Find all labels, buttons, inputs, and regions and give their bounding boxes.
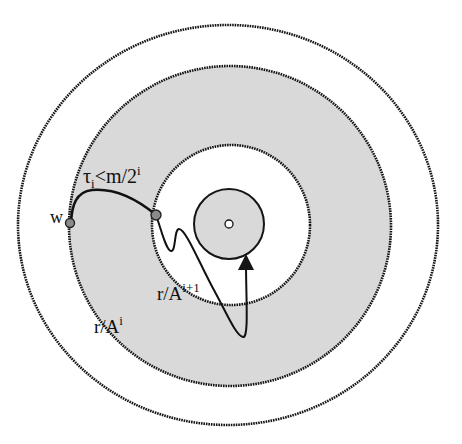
label-tau: τ: [83, 165, 91, 187]
label-r-outer-radius: r/Ai: [94, 313, 123, 337]
node-w: [66, 219, 75, 228]
label-tau-sup: i: [137, 163, 141, 178]
label-r-inner-base: r/A: [157, 283, 183, 304]
label-r-inner-sup: i+1: [182, 280, 199, 295]
concentric-circles-diagram: w τi<m/2i r/Ai r/Ai+1: [0, 0, 462, 444]
label-w: w: [50, 207, 63, 227]
label-tau-rest: <m/2: [95, 165, 137, 187]
node-inner: [151, 210, 161, 220]
label-r-outer-sup: i: [119, 313, 123, 328]
label-r-outer-base: r/A: [94, 316, 120, 337]
center-point-icon: [225, 220, 233, 228]
